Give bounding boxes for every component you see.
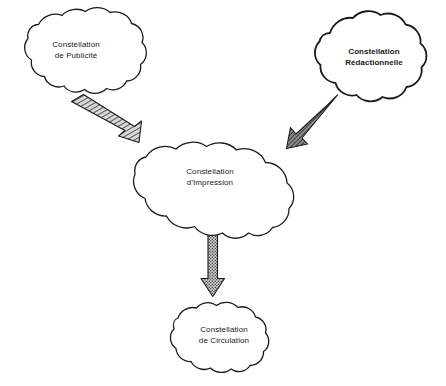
node-redactionnelle[interactable] <box>315 11 427 101</box>
node-circulation[interactable] <box>170 302 268 372</box>
arrow-publicite-to-impression <box>72 95 142 143</box>
node-publicite[interactable] <box>25 8 147 94</box>
node-impression[interactable] <box>134 142 294 238</box>
arrow-impression-to-circulation <box>201 232 225 297</box>
arrow-redactionnelle-to-impression <box>287 95 338 149</box>
diagram-canvas: Constellation de Publicité Constellation… <box>0 0 446 386</box>
diagram-figure <box>0 0 446 386</box>
